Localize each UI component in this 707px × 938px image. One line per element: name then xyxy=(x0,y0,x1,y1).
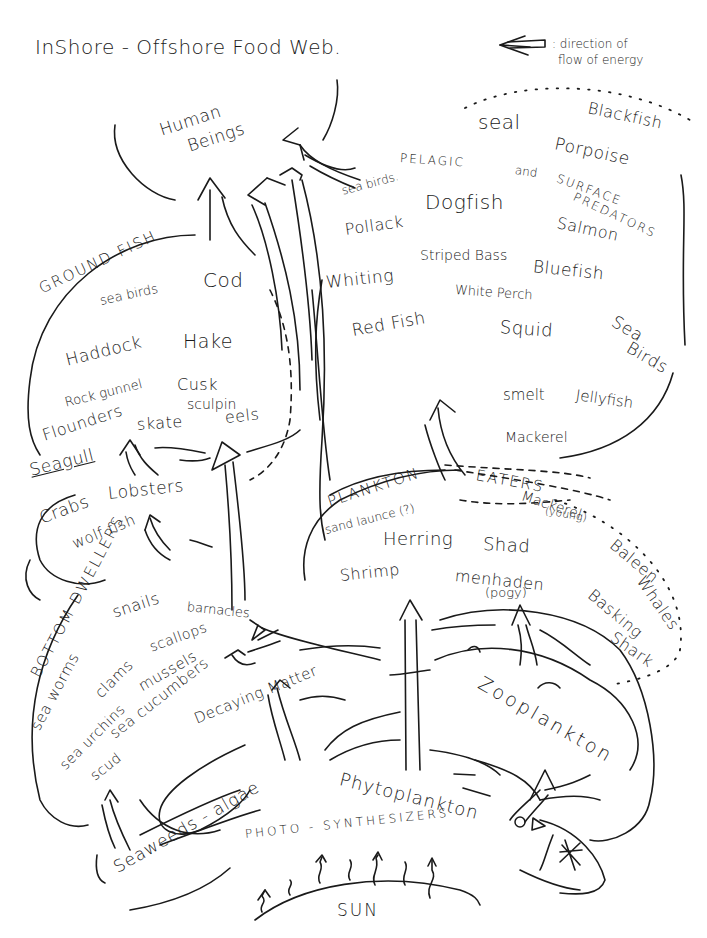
label-hake: Hake xyxy=(183,332,233,351)
legend-text-line2: flow of energy xyxy=(558,54,643,66)
food-web-diagram: InShore - Offshore Food Web. : direction… xyxy=(0,0,707,938)
label-eels: eels xyxy=(224,406,260,426)
legend-text-line1: : direction of xyxy=(552,38,628,50)
label-shad: Shad xyxy=(483,535,531,555)
label-skate: skate xyxy=(136,414,183,433)
label-dogfish: Dogfish xyxy=(425,192,504,212)
label-cod: Cod xyxy=(203,270,243,290)
label-mackerel: Mackerel xyxy=(505,430,568,444)
label-seal: seal xyxy=(478,112,521,132)
label-striped-bass: Striped Bass xyxy=(420,248,507,262)
label-menhaden-note: (pogy) xyxy=(485,586,527,599)
label-herring: Herring xyxy=(383,530,453,548)
diagram-title: InShore - Offshore Food Web. xyxy=(35,37,341,57)
label-sun: SUN xyxy=(337,902,379,919)
label-squid: Squid xyxy=(499,318,553,340)
label-smelt: smelt xyxy=(503,388,545,403)
food-web-lines xyxy=(0,0,707,938)
label-and: and xyxy=(514,164,538,179)
label-cusk: Cusk xyxy=(177,377,218,393)
legend-arrow-icon xyxy=(500,36,545,55)
